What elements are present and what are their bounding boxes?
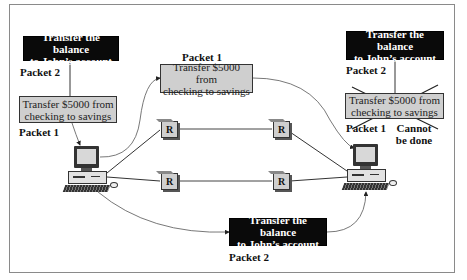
receiver-packet2-box: Transfer the balance to John’s account	[346, 31, 444, 60]
sender-packet2-box: Transfer the balance to John’s account	[23, 36, 119, 61]
receiver-packet1-label: Packet 1	[346, 122, 386, 134]
sender-packet1-label: Packet 1	[19, 126, 59, 138]
packet-text: Transfer $5000 from	[161, 61, 252, 85]
status-text: Cannot	[395, 122, 433, 134]
packet-text: Transfer the balance	[347, 28, 443, 52]
sender-packet2-label: Packet 2	[20, 66, 60, 78]
router-top-right: R	[273, 121, 290, 138]
packet-text: Transfer the balance	[24, 31, 118, 55]
router-bottom-right: R	[273, 173, 290, 190]
route-bottom-packet2-label: Packet 2	[229, 251, 269, 263]
packet-text: checking to savings	[163, 85, 250, 97]
status-text: be done	[395, 134, 433, 146]
packet-text: Transfer the balance	[230, 214, 326, 238]
route-bottom-packet2-box: Transfer the balance to John’s account	[229, 218, 327, 246]
router-top-left: R	[161, 121, 178, 138]
packet-text: Transfer $5000 from	[349, 94, 440, 106]
receiver-packet2-label: Packet 2	[346, 64, 386, 76]
packet-text: to John’s account	[354, 52, 436, 64]
packet-text: to John’s account	[30, 55, 112, 67]
packet-text: checking to savings	[25, 110, 112, 122]
receiver-computer-icon	[347, 144, 391, 194]
packet-text: checking to savings	[351, 106, 438, 118]
router-bottom-left: R	[161, 173, 178, 190]
sender-computer-icon	[68, 146, 112, 196]
cannot-be-done-status: Cannot be done	[395, 122, 433, 146]
sender-packet1-box: Transfer $5000 from checking to savings	[19, 96, 117, 123]
receiver-packet1-box: Transfer $5000 from checking to savings	[345, 93, 444, 119]
packet-text: Transfer $5000 from	[22, 98, 113, 110]
packet-text: to John’s account	[237, 238, 319, 250]
route-top-packet1-box: Transfer $5000 from checking to savings	[160, 64, 253, 93]
